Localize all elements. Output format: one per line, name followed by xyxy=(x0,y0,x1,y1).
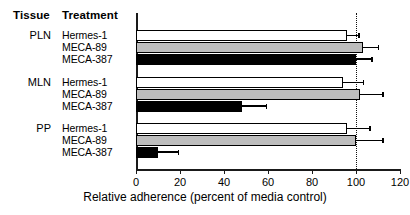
x-axis-tick-label: 60 xyxy=(262,176,274,188)
treatment-label-pp-meca-387: MECA-387 xyxy=(62,146,113,158)
x-axis-tick-label: 80 xyxy=(306,176,318,188)
x-axis-tick-label: 0 xyxy=(133,176,139,188)
treatment-label-mln-meca-89: MECA-89 xyxy=(62,88,107,100)
x-axis-tick-label: 100 xyxy=(347,176,365,188)
error-bar-mln-meca-387 xyxy=(242,105,266,106)
x-axis-tick-label: 120 xyxy=(391,176,409,188)
bar-pln-meca-387 xyxy=(136,54,356,65)
error-bar-mln-hermes-1 xyxy=(343,82,363,83)
bar-pln-hermes-1 xyxy=(136,30,347,41)
bar-mln-hermes-1 xyxy=(136,77,343,88)
error-bar-pln-meca-387 xyxy=(356,58,371,59)
tissue-label-mln: MLN xyxy=(7,76,51,88)
bar-pp-hermes-1 xyxy=(136,123,347,134)
bar-mln-meca-89 xyxy=(136,89,360,100)
bar-pp-meca-89 xyxy=(136,135,356,146)
x-axis-tick xyxy=(400,170,401,174)
x-axis-tick xyxy=(136,170,137,174)
error-bar-pp-meca-387 xyxy=(158,151,178,152)
bar-pp-meca-387 xyxy=(136,147,158,158)
bar-mln-meca-387 xyxy=(136,101,242,112)
error-bar-cap xyxy=(266,104,267,109)
error-bar-cap xyxy=(358,33,359,38)
treatment-label-pln-meca-387: MECA-387 xyxy=(62,53,113,65)
treatment-label-mln-hermes-1: Hermes-1 xyxy=(62,76,107,88)
tissue-label-pp: PP xyxy=(7,122,51,134)
error-bar-pln-hermes-1 xyxy=(347,35,358,36)
plot-area: 020406080100120 xyxy=(136,13,400,169)
error-bar-pp-hermes-1 xyxy=(347,128,369,129)
error-bar-cap xyxy=(178,150,179,155)
treatment-label-pp-hermes-1: Hermes-1 xyxy=(62,122,107,134)
x-axis-tick-label: 40 xyxy=(218,176,230,188)
error-bar-cap xyxy=(378,45,379,50)
error-bar-cap xyxy=(363,80,364,85)
x-axis-tick xyxy=(180,170,181,174)
treatment-label-pp-meca-89: MECA-89 xyxy=(62,134,107,146)
x-axis-tick-label: 20 xyxy=(174,176,186,188)
column-header-treatment: Treatment xyxy=(62,9,118,21)
bar-chart-figure: Tissue Treatment PLNMLNPP Hermes-1MECA-8… xyxy=(0,0,410,215)
x-axis-title: Relative adherence (percent of media con… xyxy=(0,190,410,204)
error-bar-cap xyxy=(382,92,383,97)
x-axis-tick xyxy=(224,170,225,174)
error-bar-pln-meca-89 xyxy=(363,47,378,48)
treatment-label-mln-meca-387: MECA-387 xyxy=(62,100,113,112)
error-bar-cap xyxy=(371,57,372,62)
x-axis-tick xyxy=(312,170,313,174)
error-bar-pp-meca-89 xyxy=(356,140,382,141)
error-bar-mln-meca-89 xyxy=(360,94,382,95)
x-axis-tick xyxy=(356,170,357,174)
treatment-label-pln-meca-89: MECA-89 xyxy=(62,41,107,53)
error-bar-cap xyxy=(369,126,370,131)
error-bar-cap xyxy=(382,138,383,143)
bar-pln-meca-89 xyxy=(136,42,363,53)
column-header-tissue: Tissue xyxy=(13,9,50,21)
x-axis-tick xyxy=(268,170,269,174)
tissue-label-pln: PLN xyxy=(7,29,51,41)
treatment-label-pln-hermes-1: Hermes-1 xyxy=(62,29,107,41)
